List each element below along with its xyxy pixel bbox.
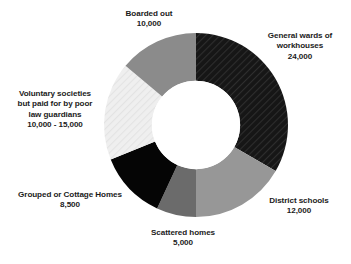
slice-label-general-wards-of-workhouses: General wards of workhouses 24,000 [252, 31, 348, 62]
slice-label-line: Scattered homes [140, 228, 226, 238]
slice-label-line: General wards of [252, 31, 348, 41]
slice-label-scattered-homes: Scattered homes 5,000 [140, 228, 226, 249]
slice-label-line: District schools [250, 196, 348, 206]
slice-label-value: 10,000 - 15,000 [3, 120, 107, 130]
slice-label-line: law guardians [3, 110, 107, 120]
slice-label-grouped-or-cottage-homes: Grouped or Cottage Homes 8,500 [6, 190, 134, 211]
slice-label-voluntary-societies: Voluntary societies but paid for by poor… [3, 89, 107, 131]
slice-label-district-schools: District schools 12,000 [250, 196, 348, 217]
donut-center-hole [152, 81, 240, 169]
slice-label-line: Boarded out [101, 9, 197, 19]
slice-label-value: 24,000 [252, 52, 348, 62]
slice-label-line: Voluntary societies [3, 89, 107, 99]
slice-label-value: 12,000 [250, 206, 348, 216]
slice-label-line: Grouped or Cottage Homes [6, 190, 134, 200]
slice-label-value: 8,500 [6, 200, 134, 210]
slice-label-boarded-out: Boarded out 10,000 [101, 9, 197, 30]
slice-label-value: 5,000 [140, 238, 226, 248]
donut-chart-figure: General wards of workhouses 24,000 Distr… [0, 0, 351, 264]
slice-label-value: 10,000 [101, 19, 197, 29]
slice-label-line: workhouses [252, 41, 348, 51]
slice-label-line: but paid for by poor [3, 99, 107, 109]
